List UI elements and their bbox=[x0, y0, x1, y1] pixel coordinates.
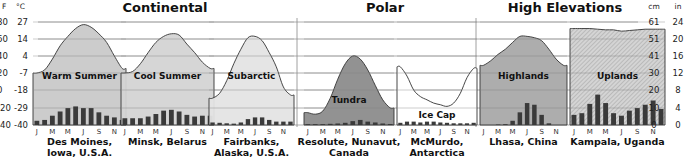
precip-bar bbox=[161, 111, 166, 125]
precip-bar bbox=[328, 124, 333, 125]
tick-in: 0 bbox=[675, 120, 680, 130]
precip-bar bbox=[518, 112, 522, 125]
month-label: J bbox=[306, 128, 309, 136]
tick-in: 16 bbox=[673, 51, 684, 61]
group-title: Continental bbox=[122, 0, 207, 15]
precip-bar bbox=[603, 103, 608, 125]
precip-bar bbox=[438, 122, 442, 125]
month-label: J bbox=[253, 128, 256, 136]
precip-bar bbox=[232, 124, 236, 125]
tick-c: 14 bbox=[17, 34, 28, 44]
unit-c: °C bbox=[16, 2, 25, 11]
precip-bar bbox=[418, 122, 422, 125]
month-label: J bbox=[438, 128, 441, 136]
month-label: M bbox=[411, 128, 417, 136]
precip-bar bbox=[572, 115, 577, 125]
month-label: J bbox=[572, 128, 575, 136]
precip-bar bbox=[579, 113, 584, 125]
location-label: Des Moines, bbox=[47, 136, 112, 147]
panel-warm-summer: Warm SummerJMMJSNDes Moines,Iowa, U.S.A. bbox=[33, 22, 126, 158]
tick-cm: 10 bbox=[649, 103, 660, 113]
precip-bar bbox=[260, 117, 264, 125]
tick-c: -29 bbox=[14, 103, 28, 113]
month-label: N bbox=[554, 128, 559, 136]
month-label: M bbox=[49, 128, 55, 136]
precip-bar bbox=[350, 121, 355, 125]
climate-type-label: Subarctic bbox=[228, 71, 276, 81]
location-label: Lhasa, China bbox=[489, 136, 557, 147]
precip-bar bbox=[210, 122, 214, 125]
month-label: N bbox=[200, 128, 205, 136]
climate-type-label: Highlands bbox=[498, 71, 549, 81]
location-label: Minsk, Belarus bbox=[128, 136, 207, 147]
month-label: J bbox=[398, 128, 401, 136]
panel-highlands: HighlandsJMMJSNLhasa, China bbox=[480, 22, 567, 147]
unit-f: F bbox=[2, 2, 6, 11]
precip-bar bbox=[50, 116, 55, 125]
location-label: Antarctica bbox=[409, 147, 464, 158]
precip-bar bbox=[335, 123, 340, 125]
precip-bar bbox=[313, 124, 318, 125]
precip-bar bbox=[611, 113, 616, 125]
climate-type-label: Cool Summer bbox=[134, 71, 202, 81]
precip-bar bbox=[365, 122, 370, 125]
precip-bar bbox=[153, 114, 158, 125]
precip-bar bbox=[595, 95, 600, 125]
precip-bar bbox=[643, 105, 648, 125]
precip-bar bbox=[184, 115, 189, 125]
month-label: M bbox=[65, 128, 71, 136]
precip-bar bbox=[445, 123, 449, 125]
month-label: N bbox=[464, 128, 469, 136]
precip-bar bbox=[130, 118, 135, 125]
month-label: J bbox=[35, 128, 38, 136]
precip-bar bbox=[619, 116, 624, 125]
month-label: J bbox=[81, 128, 84, 136]
month-label: J bbox=[169, 128, 172, 136]
precip-bar bbox=[539, 115, 543, 125]
precip-bar bbox=[281, 122, 285, 125]
climate-type-label: Uplands bbox=[597, 71, 638, 81]
precip-bar bbox=[343, 123, 348, 125]
tick-c: 27 bbox=[17, 17, 28, 27]
precip-bar bbox=[73, 106, 78, 125]
month-label: J bbox=[123, 128, 126, 136]
tick-f: 40 bbox=[0, 51, 8, 61]
group-title: High Elevations bbox=[508, 0, 623, 15]
tick-in: 12 bbox=[673, 68, 684, 78]
precip-bar bbox=[635, 108, 640, 125]
month-label: M bbox=[238, 128, 244, 136]
tick-c: -18 bbox=[14, 85, 28, 95]
precip-bar bbox=[288, 122, 292, 125]
tick-cm: 41 bbox=[649, 51, 660, 61]
location-label: Kampala, Uganda bbox=[570, 136, 664, 147]
precip-bar bbox=[65, 108, 70, 125]
tick-cm: 51 bbox=[649, 34, 660, 44]
precip-bar bbox=[225, 123, 229, 125]
precip-bar bbox=[432, 122, 436, 125]
location-label: Canada bbox=[329, 147, 369, 158]
tick-f: 0 bbox=[0, 85, 2, 95]
month-label: S bbox=[539, 128, 544, 136]
precip-bar bbox=[42, 120, 47, 125]
precip-bar bbox=[267, 120, 271, 125]
month-label: M bbox=[495, 128, 501, 136]
month-label: N bbox=[112, 128, 117, 136]
location-label: Resolute, Nunavut, bbox=[298, 136, 401, 147]
month-label: J bbox=[525, 128, 528, 136]
precip-bar bbox=[532, 105, 536, 125]
precip-bar bbox=[169, 110, 174, 125]
precip-bar bbox=[122, 118, 127, 125]
tick-in: 4 bbox=[675, 103, 680, 113]
precip-bar bbox=[177, 111, 182, 125]
precip-bar bbox=[388, 124, 393, 125]
tick-f: 20 bbox=[0, 68, 8, 78]
precip-bar bbox=[305, 124, 310, 125]
precip-bar bbox=[425, 122, 429, 125]
group-titles: ContinentalPolarHigh Elevations bbox=[122, 0, 622, 15]
month-label: S bbox=[635, 128, 640, 136]
precip-bar bbox=[253, 117, 257, 125]
precip-bar bbox=[320, 124, 325, 125]
precip-bar bbox=[380, 123, 385, 125]
precip-bar bbox=[104, 116, 109, 125]
precip-bar bbox=[503, 124, 507, 125]
